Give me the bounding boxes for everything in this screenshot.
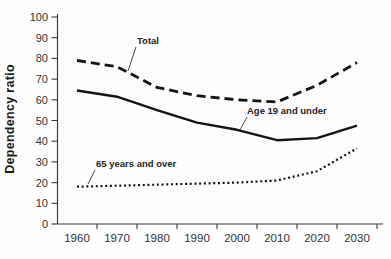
x-tick-label: 2010 [264,232,290,244]
annotation-65-years-and-over: 65 years and over [96,158,177,169]
series-line-dashed [77,61,357,102]
plot-area: 0102030405060708090100196019701980199020… [30,11,377,244]
dependency-ratio-chart: Dependency ratio 01020304050607080901001… [0,0,391,259]
y-tick-label: 10 [36,197,48,209]
y-tick-label: 30 [36,156,48,168]
y-axis-title: Dependency ratio [3,64,17,174]
annotation-age-19-and-under-leader [240,117,247,130]
y-tick-label: 100 [30,11,48,23]
y-tick-label: 70 [36,73,48,85]
x-tick-label: 2020 [304,232,330,244]
y-tick-label: 60 [36,94,48,106]
annotation-65-years-and-over-leader [88,170,95,184]
annotation-total-leader [128,47,136,71]
x-tick-label: 1960 [64,232,90,244]
annotation-total: Total [137,35,159,46]
x-tick-label: 2000 [224,232,250,244]
x-tick-label: 1990 [184,232,210,244]
annotation-age-19-and-under: Age 19 and under [247,105,327,116]
y-tick-label: 0 [42,218,48,230]
y-tick-label: 80 [36,52,48,64]
y-tick-label: 90 [36,32,48,44]
y-tick-label: 20 [36,177,48,189]
x-tick-label: 1980 [144,232,170,244]
x-tick-label: 2030 [344,232,370,244]
x-tick-label: 1970 [104,232,130,244]
chart-figure: Dependency ratio 01020304050607080901001… [0,0,391,259]
y-tick-label: 50 [36,115,48,127]
y-tick-label: 40 [36,135,48,147]
